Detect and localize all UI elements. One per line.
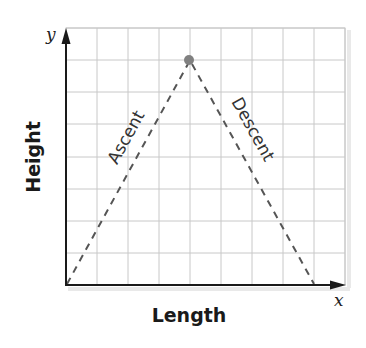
grid-shadow <box>347 30 351 288</box>
y-axis-variable: y <box>45 24 56 44</box>
x-axis-title: Length <box>152 304 227 326</box>
ascent-descent-diagram: y x Height Length Ascent Descent <box>0 0 366 348</box>
peak-point <box>184 55 194 65</box>
grid-shadow-bottom <box>68 287 350 291</box>
x-axis-variable: x <box>334 290 344 310</box>
y-axis-title: Height <box>22 121 44 193</box>
